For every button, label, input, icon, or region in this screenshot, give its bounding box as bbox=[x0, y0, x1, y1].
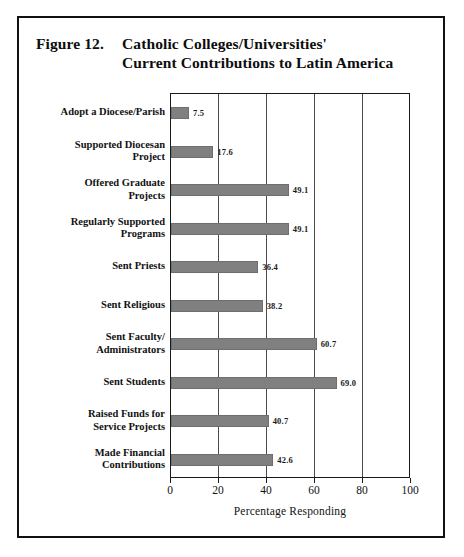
category-label: Sent Faculty/Administrators bbox=[19, 331, 165, 356]
bar bbox=[171, 107, 189, 119]
category-label-line: Sent Students bbox=[19, 376, 165, 389]
bar-row: 60.7 bbox=[171, 325, 409, 364]
bar bbox=[171, 300, 263, 312]
category-axis-labels: Adopt a Diocese/ParishSupported Diocesan… bbox=[19, 93, 165, 478]
bar bbox=[171, 338, 317, 350]
category-label-line: Programs bbox=[19, 228, 165, 241]
category-label-row: Regularly SupportedPrograms bbox=[19, 209, 165, 248]
figure-frame: Figure 12.Catholic Colleges/Universities… bbox=[17, 16, 445, 538]
x-tick-label: 80 bbox=[356, 484, 368, 496]
bar-row: 38.2 bbox=[171, 287, 409, 326]
x-axis: 020406080100 bbox=[170, 478, 410, 508]
bar-row: 40.7 bbox=[171, 402, 409, 441]
x-tick-label: 0 bbox=[167, 484, 173, 496]
category-label-line: Adopt a Diocese/Parish bbox=[19, 106, 165, 119]
category-label: Adopt a Diocese/Parish bbox=[19, 106, 165, 119]
category-label-line: Contributions bbox=[19, 459, 165, 472]
bar bbox=[171, 184, 289, 196]
bar-row: 36.4 bbox=[171, 248, 409, 287]
category-label-line: Supported Diocesan bbox=[19, 138, 165, 151]
category-label-row: Raised Funds forService Projects bbox=[19, 401, 165, 440]
x-tick bbox=[266, 478, 267, 483]
category-label-line: Regularly Supported bbox=[19, 215, 165, 228]
category-label-row: Made FinancialContributions bbox=[19, 440, 165, 479]
bar-value-label: 69.0 bbox=[341, 378, 357, 388]
bar-row: 42.6 bbox=[171, 441, 409, 480]
bar bbox=[171, 223, 289, 235]
category-label: Supported DiocesanProject bbox=[19, 138, 165, 163]
x-tick bbox=[170, 478, 171, 483]
x-axis-title: Percentage Responding bbox=[170, 505, 410, 517]
x-tick bbox=[218, 478, 219, 483]
bar-value-label: 60.7 bbox=[321, 339, 337, 349]
gridline-100 bbox=[410, 94, 411, 477]
bar-value-label: 49.1 bbox=[293, 185, 309, 195]
category-label-line: Projects bbox=[19, 189, 165, 202]
bar bbox=[171, 454, 273, 466]
bar-chart: Adopt a Diocese/ParishSupported Diocesan… bbox=[19, 18, 447, 540]
bar bbox=[171, 146, 213, 158]
bar bbox=[171, 415, 269, 427]
category-label-line: Sent Priests bbox=[19, 260, 165, 273]
bar-value-label: 7.5 bbox=[193, 108, 204, 118]
category-label-line: Project bbox=[19, 151, 165, 164]
category-label-line: Administrators bbox=[19, 343, 165, 356]
category-label-row: Sent Faculty/Administrators bbox=[19, 324, 165, 363]
x-tick bbox=[362, 478, 363, 483]
category-label-line: Service Projects bbox=[19, 420, 165, 433]
x-tick bbox=[314, 478, 315, 483]
category-label-row: Sent Priests bbox=[19, 247, 165, 286]
category-label: Made FinancialContributions bbox=[19, 446, 165, 471]
category-label: Sent Students bbox=[19, 376, 165, 389]
plot-area: 7.517.649.149.136.438.260.769.040.742.6 bbox=[170, 93, 410, 478]
bar-row: 17.6 bbox=[171, 133, 409, 172]
category-label-line: Sent Faculty/ bbox=[19, 331, 165, 344]
category-label: Sent Religious bbox=[19, 299, 165, 312]
bar-value-label: 40.7 bbox=[273, 416, 289, 426]
bar-value-label: 42.6 bbox=[277, 455, 293, 465]
category-label: Sent Priests bbox=[19, 260, 165, 273]
category-label-row: Supported DiocesanProject bbox=[19, 132, 165, 171]
bar-row: 69.0 bbox=[171, 364, 409, 403]
bar-value-label: 36.4 bbox=[262, 262, 278, 272]
category-label-row: Adopt a Diocese/Parish bbox=[19, 93, 165, 132]
bar-value-label: 17.6 bbox=[217, 147, 233, 157]
bar-value-label: 49.1 bbox=[293, 224, 309, 234]
category-label: Regularly SupportedPrograms bbox=[19, 215, 165, 240]
category-label-line: Raised Funds for bbox=[19, 408, 165, 421]
x-tick-label: 20 bbox=[212, 484, 224, 496]
bar bbox=[171, 261, 258, 273]
bar-value-label: 38.2 bbox=[267, 301, 283, 311]
category-label: Offered GraduateProjects bbox=[19, 177, 165, 202]
category-label-line: Made Financial bbox=[19, 446, 165, 459]
category-label-line: Sent Religious bbox=[19, 299, 165, 312]
category-label-line: Offered Graduate bbox=[19, 177, 165, 190]
category-label: Raised Funds forService Projects bbox=[19, 408, 165, 433]
x-tick bbox=[410, 478, 411, 483]
bar-row: 7.5 bbox=[171, 94, 409, 133]
bar bbox=[171, 377, 337, 389]
bar-row: 49.1 bbox=[171, 210, 409, 249]
x-tick-label: 40 bbox=[260, 484, 272, 496]
category-label-row: Sent Religious bbox=[19, 286, 165, 325]
category-label-row: Offered GraduateProjects bbox=[19, 170, 165, 209]
category-label-row: Sent Students bbox=[19, 363, 165, 402]
x-tick-label: 100 bbox=[401, 484, 418, 496]
x-tick-label: 60 bbox=[308, 484, 320, 496]
bar-row: 49.1 bbox=[171, 171, 409, 210]
